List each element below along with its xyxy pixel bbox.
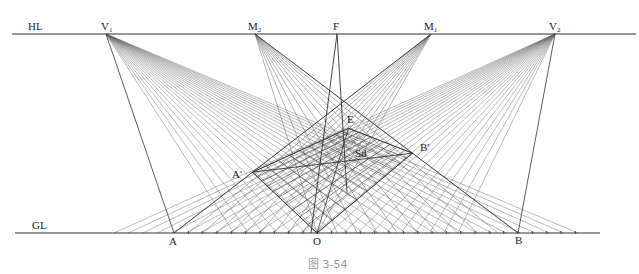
vanishing-line-v1 xyxy=(106,34,549,233)
vanishing-line-v2 xyxy=(415,34,555,233)
vanishing-line-v1 xyxy=(106,34,521,233)
label-b-prime: B' xyxy=(420,141,429,153)
vanishing-line-v1 xyxy=(106,34,306,233)
vanishing-line-v1 xyxy=(106,34,277,233)
vanishing-line-v2 xyxy=(372,34,555,233)
label-f: F xyxy=(333,20,339,32)
measuring-line-m1 xyxy=(203,34,431,233)
edge-o-b-prime xyxy=(317,153,412,233)
vanishing-line-v1 xyxy=(106,34,478,233)
vanishing-line-v1 xyxy=(106,34,349,233)
vanishing-line-v1 xyxy=(106,34,506,233)
construction-lines xyxy=(106,34,578,233)
vanishing-line-v2 xyxy=(214,34,555,233)
vanishing-line-v2 xyxy=(315,34,555,233)
label-v2: V2 xyxy=(549,20,561,34)
label-a-prime: A' xyxy=(232,168,242,180)
vanishing-line-v1 xyxy=(106,34,263,233)
vanishing-line-v2 xyxy=(186,34,555,233)
label-o: O xyxy=(313,235,321,247)
perspective-grid xyxy=(106,34,555,233)
measuring-line-m2 xyxy=(255,34,478,233)
label-m1: M1 xyxy=(424,20,438,34)
label-v1: V1 xyxy=(101,20,113,34)
line-f-o-left xyxy=(311,34,337,233)
vanishing-line-v2 xyxy=(200,34,555,233)
figure-caption: 图 3-54 xyxy=(308,258,347,271)
label-e: E xyxy=(347,113,354,125)
vanishing-line-v2 xyxy=(272,34,555,233)
horizon-label: HL xyxy=(28,20,43,32)
label-m2: M2 xyxy=(248,20,262,34)
label-a: A xyxy=(169,235,177,247)
line-b-m2 xyxy=(255,34,518,233)
vanishing-line-v1 xyxy=(106,34,420,233)
measuring-line-m1 xyxy=(231,34,431,233)
label-b: B xyxy=(515,234,522,246)
vanishing-line-v2 xyxy=(401,34,555,233)
ground-label: GL xyxy=(32,219,47,231)
vanishing-line-v2 xyxy=(358,34,555,233)
perspective-diagram: HL GL V1 M2 F M1 V2 A O B A' B' E Sd 图 3… xyxy=(0,0,639,274)
vanishing-line-v2 xyxy=(458,34,555,233)
label-sd: Sd xyxy=(355,147,367,159)
